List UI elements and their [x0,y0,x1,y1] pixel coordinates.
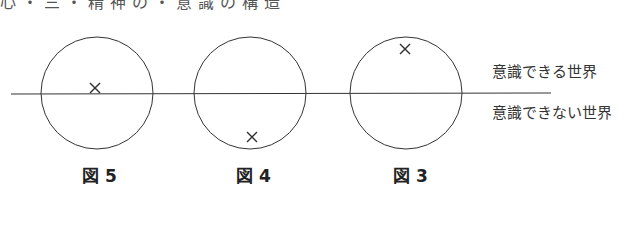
figure-caption-3: 図 3 [393,162,428,187]
x-marker-fig3 [400,44,410,54]
label-conscious-world: 意識できる世界 [492,60,597,81]
x-marker-fig5 [90,83,100,93]
figure-caption-5: 図 5 [82,162,117,187]
figure-caption-4: 図 4 [236,162,271,187]
boundary-line [11,93,551,94]
label-unconscious-world: 意識できない世界 [492,101,612,122]
x-marker-fig4 [247,132,257,142]
circle-fig5 [41,37,153,149]
